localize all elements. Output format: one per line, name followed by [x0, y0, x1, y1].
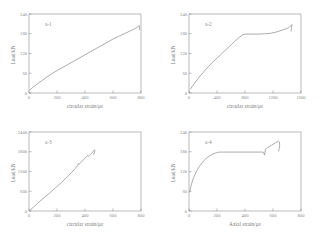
- xticks-a-3: 0 200 400 600 800: [28, 209, 145, 219]
- xtick-label: 800: [242, 95, 250, 100]
- panel-tag-a-1: a-1: [45, 21, 52, 27]
- xtick-label: 600: [270, 213, 278, 218]
- xtick-label: 400: [82, 213, 90, 218]
- ytick-label: 120: [180, 169, 188, 174]
- xaxis-title-a-1: circular strain/με: [67, 103, 104, 109]
- xtick-label: 0: [28, 95, 31, 100]
- xaxis-title-a-3: circular strain/με: [67, 221, 104, 227]
- ytick-label: 600: [20, 189, 28, 194]
- ytick-label: 2400: [18, 130, 28, 135]
- xticks-a-4: 0 200 400 600 800: [188, 209, 305, 219]
- curve-a-1: [30, 26, 139, 90]
- xtick-label: 0: [188, 95, 191, 100]
- panel-a-1: 0 200 400 600 800 0 60 120 180 240 a-1 c…: [0, 0, 160, 118]
- ytick-label: 60: [22, 71, 27, 76]
- xtick-label: 800: [138, 95, 146, 100]
- xtick-label: 200: [54, 95, 62, 100]
- xtick-label: 0: [28, 213, 31, 218]
- xtick-label: 600: [110, 95, 118, 100]
- panel-tag-a-3: a-3: [45, 139, 52, 145]
- curve-a-2: [190, 25, 292, 90]
- ytick-label: 1800: [18, 149, 28, 154]
- curve-a-4: [190, 141, 280, 192]
- yaxis-title-a-3: Load/kN: [10, 163, 16, 182]
- ytick-label: 240: [20, 12, 28, 17]
- xaxis-title-a-4: Axial strain/με: [229, 221, 262, 227]
- ytick-label: 240: [180, 12, 188, 17]
- ytick-label: 180: [180, 31, 188, 36]
- xticks-a-1: 0 200 400 600 800: [28, 91, 145, 101]
- yaxis-title-a-2: Load/kN: [170, 45, 176, 64]
- xtick-label: 200: [214, 213, 222, 218]
- yticks-a-1: 0 60 120 180 240: [20, 12, 31, 96]
- plot-a-1: 0 200 400 600 800 0 60 120 180 240 a-1 c…: [0, 0, 160, 118]
- ytick-label: 180: [180, 149, 188, 154]
- yaxis-title-a-1: Load/kN: [10, 45, 16, 64]
- curve-a-3: [30, 150, 95, 210]
- xaxis-title-a-2: circular strain/με: [227, 103, 264, 109]
- figure-four-panel-load-strain-curves: 0 200 400 600 800 0 60 120 180 240 a-1 c…: [0, 0, 320, 236]
- yticks-a-3: 0 600 1200 1800 2400: [18, 130, 32, 214]
- panel-a-4: 0 200 400 600 800 0 60 120 180 240 a-4 A…: [160, 118, 320, 236]
- plot-a-4: 0 200 400 600 800 0 60 120 180 240 a-4 A…: [160, 118, 320, 236]
- panel-a-2: 0 400 800 1200 1600 0 60 120 180 240 a-2…: [160, 0, 320, 118]
- ytick-label: 60: [182, 71, 187, 76]
- xtick-label: 200: [54, 213, 62, 218]
- ytick-label: 60: [182, 189, 187, 194]
- ytick-label: 120: [180, 51, 188, 56]
- panel-a-3: 0 200 400 600 800 0 600 1200 1800 2400 a…: [0, 118, 160, 236]
- yaxis-title-a-4: Load/kN: [170, 163, 176, 182]
- xtick-label: 800: [298, 213, 306, 218]
- xtick-label: 600: [110, 213, 118, 218]
- xtick-label: 1200: [268, 95, 278, 100]
- plot-a-2: 0 400 800 1200 1600 0 60 120 180 240 a-2…: [160, 0, 320, 118]
- xtick-label: 0: [188, 213, 191, 218]
- xticks-a-2: 0 400 800 1200 1600: [188, 91, 306, 101]
- plot-a-3: 0 200 400 600 800 0 600 1200 1800 2400 a…: [0, 118, 160, 236]
- xtick-label: 400: [214, 95, 222, 100]
- xtick-label: 1600: [296, 95, 306, 100]
- panel-tag-a-2: a-2: [205, 21, 212, 27]
- xtick-label: 400: [242, 213, 250, 218]
- panel-tag-a-4: a-4: [205, 139, 212, 145]
- xtick-label: 400: [82, 95, 90, 100]
- xtick-label: 800: [138, 213, 146, 218]
- yticks-a-4: 0 60 120 180 240: [180, 130, 191, 214]
- ytick-label: 1200: [18, 169, 28, 174]
- ytick-label: 180: [20, 31, 28, 36]
- ytick-label: 240: [180, 130, 188, 135]
- ytick-label: 120: [20, 51, 28, 56]
- yticks-a-2: 0 60 120 180 240: [180, 12, 191, 96]
